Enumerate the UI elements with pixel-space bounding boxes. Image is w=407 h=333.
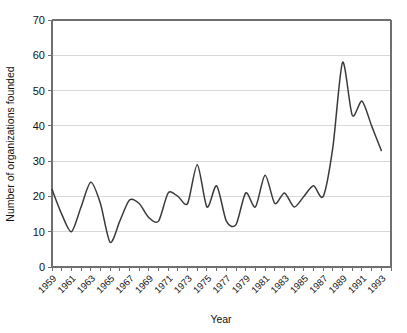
x-tick-label: 1993 [365,273,388,296]
plot-background [52,20,391,267]
y-tick-label: 70 [33,14,45,26]
x-axis-ticks [52,267,391,271]
x-tick-label: 1985 [288,273,311,296]
y-tick-label: 50 [33,85,45,97]
x-tick-label: 1979 [229,273,252,296]
x-tick-label: 1965 [94,273,117,296]
chart-canvas: 010203040506070 195919611963196519671969… [0,0,407,333]
y-tick-label: 60 [33,49,45,61]
x-tick-label: 1967 [113,273,136,296]
x-tick-label: 1959 [36,273,59,296]
x-tick-label: 1969 [133,273,156,296]
y-axis-title: Number of organizations founded [4,66,16,221]
x-tick-label: 1981 [249,273,272,296]
x-axis-title: Year [210,313,232,325]
x-tick-label: 1975 [191,273,214,296]
x-tick-label: 1987 [307,273,330,296]
x-tick-label: 1977 [210,273,233,296]
y-tick-label: 20 [33,190,45,202]
y-tick-label: 30 [33,155,45,167]
x-tick-label: 1983 [268,273,291,296]
y-axis-ticks: 010203040506070 [33,14,52,273]
x-tick-label: 1961 [55,273,78,296]
y-tick-label: 0 [39,261,45,273]
x-tick-label: 1989 [326,273,349,296]
line-chart: 010203040506070 195919611963196519671969… [0,0,407,333]
y-tick-label: 10 [33,226,45,238]
x-tick-label: 1963 [74,273,97,296]
x-tick-label: 1973 [171,273,194,296]
x-tick-label: 1971 [152,273,175,296]
x-tick-label: 1991 [346,273,369,296]
x-axis-tick-labels: 1959196119631965196719691971197319751977… [36,273,388,296]
y-tick-label: 40 [33,120,45,132]
